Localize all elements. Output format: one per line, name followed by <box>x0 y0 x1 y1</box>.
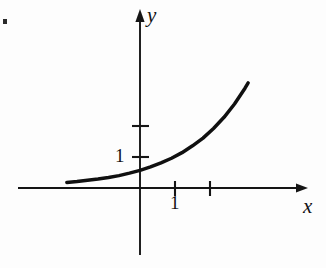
exponential-graph-figure: 1 1 y x <box>0 0 326 268</box>
x-axis-label: x <box>303 196 312 217</box>
x-axis-arrowhead <box>296 183 308 192</box>
scan-speck <box>3 19 7 24</box>
y-tick-label-1: 1 <box>115 146 125 165</box>
x-tick-label-1: 1 <box>170 193 180 212</box>
y-axis-arrowhead <box>135 9 144 22</box>
figure-canvas <box>0 0 326 268</box>
exponential-curve <box>67 83 248 183</box>
y-axis-label: y <box>147 5 156 26</box>
